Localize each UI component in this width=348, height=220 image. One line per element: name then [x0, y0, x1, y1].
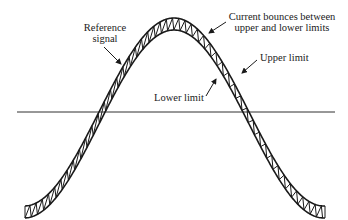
waveform-diagram [0, 0, 348, 220]
lower-limit-label: Lower limit [154, 92, 204, 103]
current-bounces-label: Current bounces between upper and lower … [222, 11, 342, 33]
reference-signal-label-line1: Reference [80, 22, 130, 33]
reference-signal-arrow [104, 47, 121, 64]
current-zigzag [25, 18, 323, 218]
current-bounces-label-line1: Current bounces between [222, 11, 342, 22]
upper-limit-label: Upper limit [260, 52, 309, 63]
reference-signal-label: Reference signal [80, 22, 130, 44]
upper-limit-arrow [242, 60, 257, 73]
reference-signal-label-line2: signal [80, 33, 130, 44]
current-bounces-label-line2: upper and lower limits [222, 22, 342, 33]
lower-limit-arrow [206, 79, 216, 96]
